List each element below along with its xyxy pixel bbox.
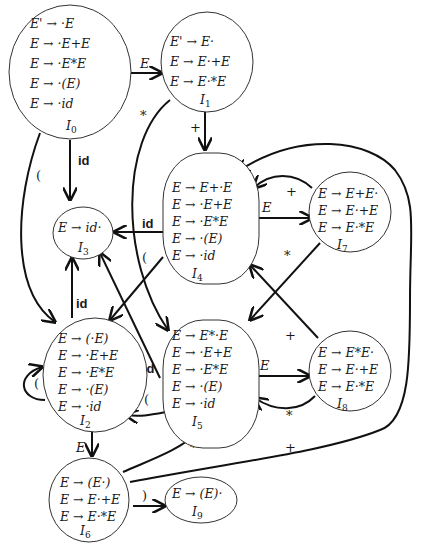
state-I7-item-1: E → E·+E <box>317 203 378 218</box>
state-I5-item-2: E → ·E*E <box>171 362 228 377</box>
state-I8-item-0: E → E*E· <box>317 345 374 360</box>
state-I4-item-2: E → ·E*E <box>171 214 228 229</box>
label-I0-I2: ( <box>36 168 41 183</box>
state-I2-item-0: E → (·E) <box>57 331 109 346</box>
edge-I0-I2 <box>21 133 55 322</box>
label-I4-I3: id <box>142 216 154 231</box>
state-I5-item-0: E → E*·E <box>171 328 228 343</box>
state-I8: E → E*E· E → E·+E E → E·*E I8 <box>309 331 391 413</box>
label-I7-I4: + <box>286 184 297 199</box>
label-I2-I2: ( <box>34 376 39 391</box>
state-I0-item-0: E' → ·E <box>29 16 74 31</box>
state-I0-item-2: E → ·E*E <box>29 56 86 71</box>
state-I8-item-1: E → E·+E <box>317 362 378 377</box>
state-I4-item-0: E → E+·E <box>171 180 232 195</box>
state-I5-item-1: E → ·E+E <box>171 345 232 360</box>
state-I2-item-2: E → ·E*E <box>57 365 114 380</box>
label-I1-I5: * <box>140 108 147 123</box>
state-I1: E' → E· E → E·+E E → E·*E I1 <box>161 12 253 112</box>
state-I2-item-4: E → ·id <box>57 399 102 414</box>
state-I0-item-3: E → ·(E) <box>29 76 81 91</box>
state-I6-item-0: E → (E·) <box>59 475 111 490</box>
state-I5: E → E*·E E → ·E+E E → ·E*E E → ·(E) E → … <box>163 320 259 448</box>
state-I4: E → E+·E E → ·E+E E → ·E*E E → ·(E) E → … <box>163 153 259 284</box>
label-I2-I6: E <box>75 440 86 455</box>
label-I6-I4: + <box>285 440 296 455</box>
label-I0-I3: id <box>78 153 90 168</box>
state-I6-item-1: E → E·+E <box>59 492 120 507</box>
state-I5-item-4: E → ·id <box>171 396 216 411</box>
state-I2: E → (·E) E → ·E+E E → ·E*E E → ·(E) E → … <box>43 318 147 432</box>
label-I2-I3: id <box>76 296 88 311</box>
edge-I7-I4 <box>254 176 312 188</box>
state-I4-item-1: E → ·E+E <box>171 197 232 212</box>
edge-I8-I5 <box>255 396 315 408</box>
state-I7: E → E+E· E → E·+E E → E·*E I7 <box>309 172 391 254</box>
label-I5-I8: E <box>259 358 270 373</box>
label-I6-I9: ) <box>142 488 147 503</box>
state-I1-item-1: E → E·+E <box>169 54 230 69</box>
lr0-automaton-diagram: E id ( + * E + id ( * id id ( ( E * + E … <box>0 0 442 559</box>
state-I4-item-3: E → ·(E) <box>171 231 223 246</box>
state-I0: E' → ·E E → ·E+E E → ·E*E E → ·(E) E → ·… <box>9 5 131 139</box>
state-I5-item-3: E → ·(E) <box>171 379 223 394</box>
state-I6: E → (E·) E → E·+E E → E·*E I6 <box>49 458 129 542</box>
state-I0-item-4: E → ·id <box>29 96 74 111</box>
state-I4-item-4: E → ·id <box>171 248 216 263</box>
state-I0-item-1: E → ·E+E <box>29 36 90 51</box>
state-I1-item-0: E' → E· <box>169 34 214 49</box>
label-I5-I2: ( <box>144 392 149 407</box>
state-I2-item-1: E → ·E+E <box>57 348 118 363</box>
edge-I8-I4 <box>250 265 318 338</box>
state-I3: E → id· I3 <box>53 207 113 259</box>
label-I4-I7: E <box>261 200 272 215</box>
label-I1-I4: + <box>190 120 201 135</box>
label-I4-I2: ( <box>142 250 147 265</box>
state-I7-item-2: E → E·*E <box>317 220 374 235</box>
state-I6-item-2: E → E·*E <box>59 509 116 524</box>
state-I8-item-2: E → E·*E <box>317 379 374 394</box>
label-I8-I4: + <box>285 328 296 343</box>
label-I7-I5: * <box>284 248 291 263</box>
state-I9: E → (E)· I9 <box>165 477 237 523</box>
state-I1-item-2: E → E·*E <box>169 74 226 89</box>
state-I2-item-3: E → ·(E) <box>57 382 109 397</box>
state-I9-item-0: E → (E)· <box>171 486 222 501</box>
label-I0-I1: E <box>139 56 150 71</box>
label-I8-I5: * <box>286 408 293 423</box>
state-I3-item-0: E → id· <box>57 220 102 235</box>
state-I7-item-0: E → E+E· <box>317 186 378 201</box>
